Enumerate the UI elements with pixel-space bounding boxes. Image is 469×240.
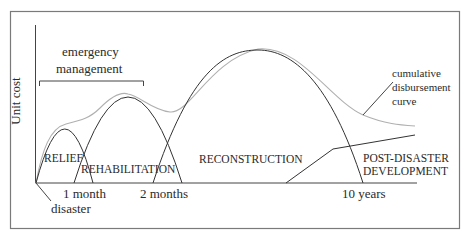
phase-label-development-line1: POST-DISASTER [363, 153, 449, 165]
cumulative-pointer [363, 82, 393, 115]
x-label-two-months: 2 months [140, 187, 188, 200]
emergency-label-line2: management [56, 62, 122, 75]
phase-label-development-line2: DEVELOPMENT [363, 166, 448, 178]
y-axis-label: Unit cost [8, 77, 24, 124]
x-label-ten-years: 10 years [342, 187, 386, 200]
disaster-pointer [36, 183, 51, 201]
annotation-line3: curve [392, 94, 416, 109]
phase-label-relief: RELIEF [44, 153, 83, 165]
x-label-one-month: 1 month [63, 187, 106, 200]
phase-label-reconstruction: RECONSTRUCTION [199, 154, 303, 166]
annotation-line2: disbursement [392, 80, 451, 95]
x-label-disaster: disaster [51, 202, 91, 215]
emergency-management-bracket [40, 81, 144, 86]
phase-label-rehabilitation: REHABILITATION [81, 164, 175, 176]
annotation-line1: cumulative [392, 66, 441, 81]
emergency-label-line1: emergency [62, 45, 119, 58]
